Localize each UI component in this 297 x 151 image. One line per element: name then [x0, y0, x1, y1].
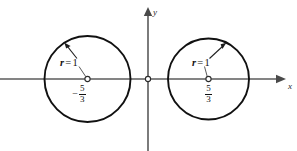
right-radius-value: 1 [204, 57, 209, 68]
left-center-numerator: 5 [79, 84, 86, 94]
left-radius-label: r=1 [60, 58, 78, 69]
coordinate-plot: x y [0, 0, 297, 151]
right-center-label: 5 3 [196, 84, 221, 104]
right-center-marker [206, 76, 211, 81]
right-center-fraction: 5 3 [205, 84, 212, 104]
left-center-marker [85, 76, 90, 81]
x-axis-label: x [287, 81, 292, 91]
x-axis-arrowhead [276, 75, 286, 83]
right-radius-variable: r [192, 57, 196, 68]
origin-marker [145, 76, 150, 81]
left-center-denominator: 3 [79, 95, 86, 105]
right-center-numerator: 5 [205, 84, 212, 94]
figure-canvas: x y r=1 − 5 3 r=1 [0, 0, 297, 151]
left-radius-equals: = [65, 57, 71, 68]
y-axis-arrowhead [144, 7, 152, 16]
right-radius-pointer-line [210, 46, 224, 59]
left-center-fraction: 5 3 [79, 84, 86, 104]
y-axis-label: y [152, 7, 157, 17]
right-radius-equals: = [197, 57, 203, 68]
right-center-denominator: 3 [205, 95, 212, 105]
left-center-minus-sign: − [72, 89, 78, 99]
left-radius-value: 1 [72, 57, 77, 68]
left-radius-variable: r [60, 57, 64, 68]
right-radius-label: r=1 [192, 58, 210, 69]
left-center-label: − 5 3 [62, 84, 96, 104]
left-center-leader [79, 67, 86, 77]
left-radius-pointer-head [64, 42, 70, 48]
